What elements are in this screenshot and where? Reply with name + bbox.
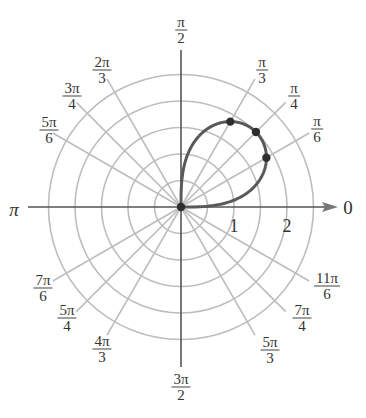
angle-label-5pi-4: 5π4 xyxy=(57,303,76,334)
polar-plot: 0 π 1 2 π2 π3 π4 π6 2π3 3π4 5π6 7π6 5π4 … xyxy=(0,0,366,418)
angle-label-pi-6: π6 xyxy=(311,114,323,145)
grid-ray xyxy=(181,207,255,335)
grid-ray xyxy=(107,207,181,335)
angle-label-7pi-6: 7π6 xyxy=(33,273,52,304)
grid-ray xyxy=(53,207,181,281)
radial-tick-1: 1 xyxy=(230,216,239,237)
angle-label-3pi-2: 3π2 xyxy=(171,372,190,403)
grid-ray xyxy=(107,79,181,207)
angle-label-5pi-6: 5π6 xyxy=(39,115,58,146)
angle-label-3pi-4: 3π4 xyxy=(62,81,81,112)
polar-grid xyxy=(0,0,366,418)
data-point xyxy=(262,154,270,162)
grid-ray xyxy=(53,133,181,207)
data-point xyxy=(252,128,260,136)
radial-tick-2: 2 xyxy=(283,216,292,237)
angle-label-11pi-6: 11π6 xyxy=(314,271,340,302)
grid-ray xyxy=(181,102,286,207)
data-point xyxy=(226,117,234,125)
grid-ray xyxy=(76,207,181,312)
angle-label-pi-3: π3 xyxy=(256,55,268,86)
angle-label-7pi-4: 7π4 xyxy=(292,303,311,334)
angle-label-4pi-3: 4π3 xyxy=(92,334,111,365)
angle-label-pi-4: π4 xyxy=(288,81,300,112)
data-point xyxy=(177,203,185,211)
angle-label-0: 0 xyxy=(343,197,353,219)
angle-label-5pi-3: 5π3 xyxy=(260,335,279,366)
angle-label-pi-2: π2 xyxy=(175,15,187,46)
angle-label-pi: π xyxy=(9,199,19,221)
grid-ray xyxy=(76,102,181,207)
angle-label-2pi-3: 2π3 xyxy=(92,55,111,86)
